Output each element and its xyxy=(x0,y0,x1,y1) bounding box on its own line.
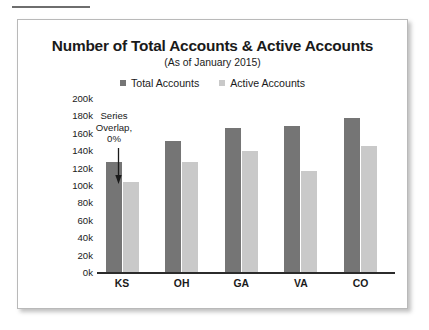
legend-swatch-active-accounts xyxy=(219,80,225,86)
bar-group xyxy=(276,98,336,272)
y-axis-tick-label: 0k xyxy=(83,267,93,278)
y-axis-tick-label: 80k xyxy=(78,197,93,208)
annotation-line-1: Series xyxy=(87,110,141,122)
x-axis-tick-label: VA xyxy=(294,278,308,289)
series-overlap-annotation: Series Overlap, 0% xyxy=(87,110,141,145)
legend-label-active-accounts: Active Accounts xyxy=(230,77,305,89)
bar-active-accounts xyxy=(242,151,258,272)
y-axis-tick-label: 60k xyxy=(78,214,93,225)
x-axis-line xyxy=(97,272,395,274)
chart-title: Number of Total Accounts & Active Accoun… xyxy=(18,37,407,55)
chart-card: Number of Total Accounts & Active Accoun… xyxy=(17,19,408,309)
bar-active-accounts xyxy=(361,146,377,272)
y-axis-tick-label: 20k xyxy=(78,249,93,260)
down-arrow-icon xyxy=(114,148,123,184)
annotation-line-3: 0% xyxy=(87,133,141,145)
y-axis-tick-label: 40k xyxy=(78,232,93,243)
bar-total-accounts xyxy=(225,128,241,272)
bar-total-accounts xyxy=(165,141,181,272)
chart-legend: Total Accounts Active Accounts xyxy=(18,77,407,89)
bar-total-accounts xyxy=(284,126,300,272)
bars-region xyxy=(97,98,395,274)
y-axis-tick-label: 120k xyxy=(72,162,93,173)
bar-group xyxy=(157,98,217,272)
legend-item-active-accounts: Active Accounts xyxy=(219,77,305,89)
bar-group xyxy=(335,98,395,272)
bar-active-accounts xyxy=(182,162,198,272)
x-axis-tick-label: GA xyxy=(233,278,249,289)
x-axis-tick-label: OH xyxy=(174,278,190,289)
legend-item-total-accounts: Total Accounts xyxy=(120,77,199,89)
bar-total-accounts xyxy=(344,118,360,272)
top-divider-rule xyxy=(12,6,90,8)
bar-active-accounts xyxy=(301,171,317,272)
legend-label-total-accounts: Total Accounts xyxy=(131,77,199,89)
annotation-line-2: Overlap, xyxy=(87,122,141,134)
y-axis-tick-label: 140k xyxy=(72,145,93,156)
bar-active-accounts xyxy=(123,182,139,272)
x-axis-labels: KSOHGAVACO xyxy=(97,278,395,294)
chart-subtitle: (As of January 2015) xyxy=(18,57,407,68)
y-axis-tick-label: 100k xyxy=(72,180,93,191)
bar-group xyxy=(216,98,276,272)
y-axis-tick-label: 200k xyxy=(72,93,93,104)
x-axis-tick-label: KS xyxy=(115,278,129,289)
x-axis-tick-label: CO xyxy=(353,278,369,289)
legend-swatch-total-accounts xyxy=(120,80,126,86)
